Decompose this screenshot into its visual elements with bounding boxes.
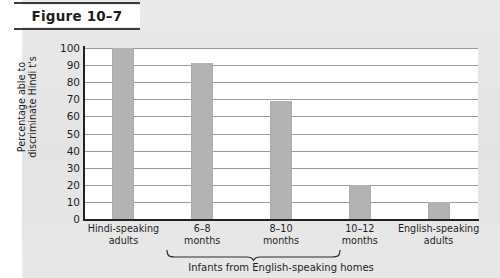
y-tick-label-10: 10 — [67, 196, 80, 208]
group-bracket-icon — [166, 250, 341, 261]
bar-3 — [349, 185, 371, 219]
y-tick-label-30: 30 — [67, 162, 80, 174]
y-axis-tick-labels: 1009080706050403020100 — [52, 48, 80, 219]
x-axis-category-labels: Hindi-speaking adults6–8 months8–10 mont… — [84, 223, 478, 253]
y-tick-label-100: 100 — [60, 42, 80, 54]
x-axis-line — [83, 219, 479, 221]
y-tick-label-90: 90 — [67, 59, 80, 71]
gridline-100 — [84, 48, 478, 49]
y-tick-label-50: 50 — [67, 128, 80, 140]
group-caption: Infants from English-speaking homes — [84, 262, 478, 273]
y-tick-label-20: 20 — [67, 179, 80, 191]
plot-area — [84, 48, 478, 219]
figure-header: Figure 10–7 — [14, 2, 140, 30]
y-tick-label-80: 80 — [67, 76, 80, 88]
y-tick-label-40: 40 — [67, 145, 80, 157]
y-tick-label-70: 70 — [67, 93, 80, 105]
x-axis-label-4: English-speaking adults — [392, 223, 486, 246]
figure-header-rule-bottom — [14, 28, 140, 30]
gridline-90 — [84, 65, 478, 66]
figure-label-box: Figure 10–7 — [14, 5, 140, 27]
figure-header-rule-top — [14, 2, 140, 4]
y-tick-label-60: 60 — [67, 110, 80, 122]
figure-label: Figure 10–7 — [32, 8, 123, 24]
y-axis-title: Percentage able to discriminate Hindi t'… — [16, 43, 38, 171]
gridline-80 — [84, 82, 478, 83]
bar-4 — [428, 202, 450, 219]
bar-0 — [112, 48, 134, 219]
bar-1 — [191, 63, 213, 219]
bar-2 — [270, 101, 292, 219]
figure-page: Figure 10–7 Percentage able to discrimin… — [0, 0, 500, 278]
y-axis-line — [83, 46, 85, 221]
